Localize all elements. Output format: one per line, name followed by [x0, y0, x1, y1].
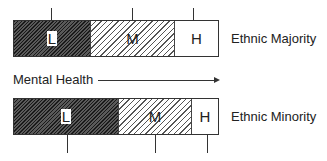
- arrow-right-icon: [214, 77, 220, 83]
- segment-label: L: [47, 31, 57, 46]
- minority-tick-low: [67, 135, 68, 153]
- majority-segment-high: H: [174, 21, 218, 56]
- minority-segment-low: L: [14, 99, 118, 134]
- majority-label: Ethnic Majority: [231, 31, 316, 46]
- majority-bar: L M H: [13, 20, 219, 57]
- majority-segment-mid: M: [90, 21, 174, 56]
- majority-tick-high: [193, 8, 194, 20]
- minority-tick-mid: [155, 135, 156, 153]
- majority-tick-mid: [132, 8, 133, 20]
- majority-tick-low: [51, 8, 52, 20]
- axis-arrow-line: [98, 80, 215, 81]
- segment-label: M: [125, 31, 140, 46]
- minority-bar: L M H: [13, 98, 219, 135]
- minority-tick-high: [207, 135, 208, 153]
- minority-label: Ethnic Minority: [231, 109, 316, 124]
- axis-label: Mental Health: [13, 72, 93, 87]
- segment-label: H: [199, 109, 212, 124]
- segment-label: M: [148, 109, 163, 124]
- segment-label: L: [61, 109, 71, 124]
- majority-segment-low: L: [14, 21, 90, 56]
- minority-segment-mid: M: [118, 99, 191, 134]
- segment-label: H: [190, 31, 203, 46]
- minority-segment-high: H: [191, 99, 218, 134]
